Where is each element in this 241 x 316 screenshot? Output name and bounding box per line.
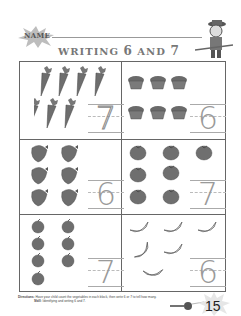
title-num-6: 6 [124, 44, 133, 58]
apple-icon-group [30, 218, 80, 290]
grid-divider-horizontal-1 [19, 139, 226, 140]
title-word: WRITING [58, 46, 119, 57]
directions-text: Directions: Have your child count the ve… [18, 295, 168, 303]
answer-trace-6-strawberries[interactable]: 6 [88, 180, 124, 212]
skill-label: Skill: [34, 299, 42, 303]
page-number: 15 [205, 298, 221, 314]
answer-trace-7-carrots[interactable]: 7 [88, 104, 124, 136]
name-label: NAME [24, 31, 50, 40]
page-title: WRITING 6 AND 7 [58, 44, 180, 58]
name-write-line[interactable] [52, 37, 202, 38]
answer-trace-7-tomatoes[interactable]: 7 [190, 180, 226, 212]
answer-trace-7-apples[interactable]: 7 [88, 258, 124, 290]
grid-divider-horizontal-2 [19, 214, 226, 215]
farmer-mascot-icon [195, 18, 235, 60]
title-and: AND [137, 46, 166, 57]
answer-trace-6-bananas[interactable]: 6 [190, 258, 226, 290]
strawberry-icon-group [28, 142, 88, 208]
answer-trace-6-muffins[interactable]: 6 [190, 104, 226, 136]
title-num-7: 7 [170, 44, 179, 58]
muffin-icon-group [126, 76, 196, 126]
skill-body: Identifying and writing 6 and 7. [43, 299, 86, 303]
